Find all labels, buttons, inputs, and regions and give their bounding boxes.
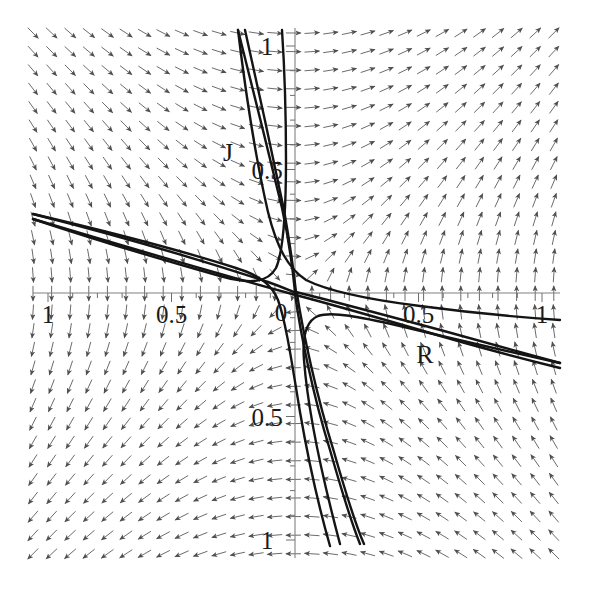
field-arrow (31, 361, 35, 375)
field-arrow (550, 455, 558, 468)
field-arrow (233, 324, 241, 337)
field-arrow (267, 516, 282, 517)
field-arrow (194, 86, 208, 92)
field-arrow (159, 194, 168, 206)
field-arrow (459, 249, 462, 264)
field-arrow (230, 496, 244, 500)
field-arrow (398, 551, 412, 557)
field-arrow (550, 138, 557, 151)
field-arrow (550, 436, 558, 449)
field-arrow (323, 497, 338, 500)
field-arrow (474, 474, 485, 485)
field-arrow (105, 342, 109, 356)
field-arrow (438, 399, 447, 411)
field-arrow (532, 379, 537, 393)
field-arrow (139, 139, 150, 150)
field-arrow (212, 123, 226, 129)
field-arrow (385, 305, 388, 320)
field-arrow (124, 342, 129, 356)
field-arrow (29, 473, 38, 485)
axis-name: R (416, 340, 434, 369)
field-arrow (121, 455, 132, 466)
field-arrow (417, 494, 430, 502)
field-arrow (212, 458, 226, 464)
field-arrow (362, 178, 375, 186)
field-arrow (140, 418, 150, 429)
field-arrow (380, 438, 393, 446)
field-arrow (440, 342, 445, 356)
field-arrow (436, 531, 449, 539)
field-arrow (325, 325, 336, 335)
field-arrow (232, 214, 244, 223)
field-arrow (455, 456, 466, 467)
field-arrow (530, 549, 541, 559)
field-arrow (513, 417, 521, 430)
field-arrow (231, 382, 244, 390)
field-arrow (454, 550, 467, 558)
field-arrow (323, 124, 338, 127)
field-arrow (67, 193, 73, 207)
field-arrow (418, 121, 430, 130)
x-tick-label: 1 (42, 301, 55, 328)
field-arrow (162, 267, 164, 282)
field-arrow (104, 194, 111, 207)
field-arrow (533, 342, 536, 357)
field-arrow (512, 138, 520, 150)
field-arrow (50, 249, 52, 264)
field-arrow (324, 384, 338, 389)
field-arrow (512, 83, 522, 94)
x-tick-label: 0 (275, 299, 288, 326)
field-arrow (531, 473, 540, 485)
field-arrow (250, 364, 263, 371)
field-arrow (28, 530, 38, 541)
field-arrow (400, 195, 410, 206)
field-arrow (512, 474, 522, 485)
field-arrow (474, 65, 486, 75)
field-arrow (28, 83, 37, 95)
field-arrow (494, 436, 503, 448)
field-arrow (101, 29, 113, 38)
field-arrow (193, 49, 207, 54)
phase-portrait-figure: 10.500.5110.50.51JR (0, 0, 591, 589)
field-arrow (30, 398, 36, 412)
field-arrow (511, 530, 522, 540)
field-arrow (102, 474, 113, 485)
field-arrow (29, 120, 37, 133)
field-arrow (364, 324, 371, 337)
field-arrow (399, 476, 412, 484)
field-arrow (361, 105, 375, 110)
field-arrow (552, 230, 555, 245)
field-arrow (231, 440, 245, 445)
field-arrow (157, 103, 169, 112)
field-arrow (66, 417, 74, 430)
field-arrow (436, 494, 448, 503)
field-arrow (85, 175, 92, 188)
field-arrow (549, 101, 558, 113)
field-arrow (534, 249, 536, 264)
field-arrow (231, 402, 244, 409)
field-arrow (474, 455, 484, 466)
field-arrow (402, 343, 409, 356)
field-arrow (342, 50, 357, 53)
field-arrow (455, 512, 467, 521)
field-arrow (455, 47, 467, 56)
field-arrow (323, 32, 338, 34)
field-arrow (494, 139, 503, 151)
field-arrow (400, 177, 411, 188)
field-arrow (548, 28, 559, 39)
field-arrow (423, 267, 425, 282)
field-arrow (158, 140, 169, 150)
field-arrow (102, 493, 113, 503)
field-arrow (70, 267, 71, 282)
field-arrow (362, 363, 373, 373)
field-arrow (493, 493, 504, 504)
field-arrow (107, 305, 109, 320)
field-arrow (417, 66, 430, 74)
field-arrow (157, 30, 170, 37)
field-arrow (83, 65, 94, 75)
field-arrow (436, 84, 448, 93)
field-arrow (123, 361, 129, 375)
field-arrow (361, 514, 375, 519)
field-arrow (514, 212, 519, 226)
field-arrow (157, 550, 170, 557)
